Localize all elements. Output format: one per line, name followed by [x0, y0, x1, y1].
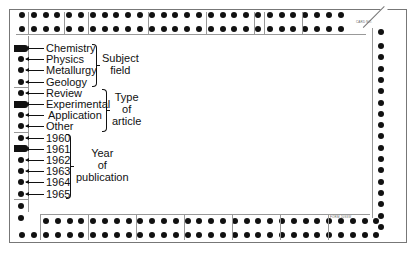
divider	[14, 199, 28, 200]
top-inner-hole	[326, 26, 332, 32]
top-outer-hole	[90, 12, 96, 18]
top-outer-hole	[326, 12, 332, 18]
bottom-outer-hole	[126, 232, 132, 238]
group-label-line: article	[112, 115, 141, 127]
group-label-line: of	[112, 103, 141, 115]
top-inner-hole	[43, 26, 49, 32]
divider	[254, 12, 255, 34]
bottom-outer-hole	[303, 232, 309, 238]
top-inner-hole	[279, 26, 285, 32]
group-label-line: Year	[76, 147, 129, 159]
divider	[136, 214, 137, 240]
bottom-outer-hole	[185, 232, 191, 238]
right-hole	[378, 213, 384, 219]
bottom-inner-hole	[362, 218, 368, 224]
arrow-icon	[26, 48, 44, 49]
right-hole	[378, 29, 384, 35]
category-item-label: Geology	[46, 76, 87, 88]
group-brace	[92, 44, 97, 87]
bottom-outer-hole	[19, 232, 25, 238]
left-hole	[18, 215, 24, 221]
arrow-icon	[26, 59, 44, 60]
top-inner-hole	[314, 26, 320, 32]
bottom-outer-hole	[43, 232, 49, 238]
right-hole	[378, 100, 384, 106]
category-item-label: Chemistry	[46, 42, 96, 54]
top-inner-hole	[161, 26, 167, 32]
divider	[372, 28, 373, 218]
top-outer-hole	[208, 12, 214, 18]
divider	[184, 214, 185, 240]
category-item-label: Metallurgy	[46, 64, 97, 76]
top-inner-hole	[338, 26, 344, 32]
divider	[206, 12, 207, 34]
bottom-outer-hole	[102, 232, 108, 238]
left-hole	[18, 90, 24, 96]
arrow-icon	[26, 104, 44, 105]
group-label-line: publication	[76, 171, 129, 183]
group-label: Subjectfield	[102, 52, 139, 76]
divider	[28, 12, 29, 34]
top-inner-hole	[208, 26, 214, 32]
top-inner-hole	[137, 26, 143, 32]
group-label: Yearofpublication	[76, 147, 129, 183]
arrow-icon	[26, 182, 44, 183]
group-label: Typeofarticle	[112, 91, 141, 127]
top-outer-hole	[279, 12, 285, 18]
arrow-icon	[26, 93, 44, 94]
bottom-outer-hole	[173, 232, 179, 238]
bottom-outer-hole	[114, 232, 120, 238]
divider	[14, 132, 28, 133]
top-inner-hole	[196, 26, 202, 32]
top-inner-hole	[90, 26, 96, 32]
divider	[40, 214, 41, 240]
bottom-inner-hole	[303, 218, 309, 224]
top-outer-hole	[220, 12, 226, 18]
category-item-label: Other	[46, 120, 74, 132]
left-hole	[18, 203, 24, 209]
top-outer-hole	[267, 12, 273, 18]
arrow-icon	[26, 149, 44, 150]
arrow-icon	[26, 82, 44, 83]
top-outer-hole	[102, 12, 108, 18]
arrow-icon	[26, 171, 44, 172]
left-hole	[18, 79, 24, 85]
group-brace	[66, 134, 71, 199]
divider	[16, 34, 366, 35]
group-label-line: field	[102, 64, 139, 76]
group-label-line: Subject	[102, 52, 139, 64]
top-outer-hole	[314, 12, 320, 18]
divider	[280, 214, 281, 240]
bottom-inner-hole	[161, 218, 167, 224]
bottom-outer-hole	[291, 232, 297, 238]
divider	[328, 214, 329, 240]
divider	[40, 214, 370, 215]
bottom-outer-hole	[244, 232, 250, 238]
corner-text: CARD NO.	[356, 20, 372, 24]
category-item-label: Review	[46, 87, 82, 99]
top-outer-hole	[137, 12, 143, 18]
bottom-inner-hole	[114, 218, 120, 224]
arrow-icon	[26, 194, 44, 195]
right-hole	[378, 111, 384, 117]
right-hole	[378, 190, 384, 196]
top-outer-hole	[161, 12, 167, 18]
divider	[148, 12, 149, 34]
bottom-outer-hole	[67, 232, 73, 238]
right-hole	[378, 66, 384, 72]
top-inner-hole	[19, 26, 25, 32]
right-hole	[378, 145, 384, 151]
bottom-inner-hole	[102, 218, 108, 224]
divider	[88, 214, 89, 240]
arrow-icon	[26, 70, 44, 71]
top-inner-hole	[220, 26, 226, 32]
right-hole	[378, 156, 384, 162]
bottom-inner-hole	[173, 218, 179, 224]
left-hole	[18, 157, 24, 163]
right-hole	[378, 224, 384, 230]
top-outer-hole	[19, 12, 25, 18]
divider	[14, 87, 28, 88]
divider	[264, 12, 265, 34]
right-hole	[378, 77, 384, 83]
top-inner-hole	[149, 26, 155, 32]
